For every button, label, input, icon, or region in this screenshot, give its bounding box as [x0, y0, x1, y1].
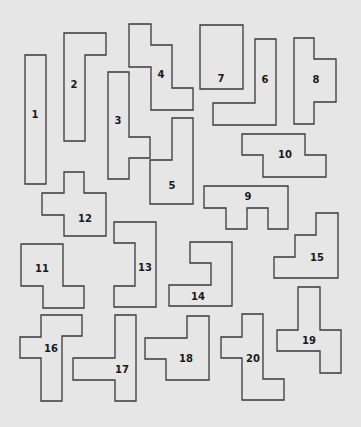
piece-12: 12	[42, 172, 106, 236]
piece-10: 10	[242, 134, 326, 177]
piece-outline	[42, 172, 106, 236]
piece-label: 11	[35, 263, 49, 274]
piece-label: 12	[78, 213, 92, 224]
piece-outline	[277, 287, 341, 373]
piece-label: 5	[169, 180, 176, 191]
piece-label: 9	[245, 191, 252, 202]
piece-3: 3	[108, 72, 150, 179]
pieces-canvas: 1234567891011121314151617181920	[0, 0, 361, 427]
piece-outline	[150, 118, 193, 204]
piece-label: 13	[138, 262, 152, 273]
piece-13: 13	[114, 222, 156, 307]
piece-label: 18	[179, 353, 193, 364]
piece-7: 7	[200, 25, 243, 89]
piece-20: 20	[221, 314, 284, 400]
piece-9: 9	[204, 186, 288, 229]
piece-14: 14	[169, 242, 232, 306]
piece-1: 1	[25, 55, 46, 184]
piece-outline	[274, 213, 338, 278]
piece-11: 11	[21, 244, 84, 308]
piece-label: 3	[115, 115, 122, 126]
piece-label: 15	[310, 252, 324, 263]
piece-label: 2	[71, 79, 78, 90]
piece-2: 2	[64, 33, 106, 141]
piece-label: 17	[115, 364, 129, 375]
piece-label: 19	[302, 335, 316, 346]
piece-19: 19	[277, 287, 341, 373]
piece-label: 6	[262, 74, 269, 85]
piece-4: 4	[129, 24, 193, 110]
piece-18: 18	[145, 316, 209, 380]
piece-label: 1	[32, 109, 39, 120]
piece-15: 15	[274, 213, 338, 278]
piece-outline	[145, 316, 209, 380]
piece-label: 4	[158, 69, 165, 80]
piece-label: 10	[278, 149, 292, 160]
piece-label: 20	[246, 353, 260, 364]
piece-8: 8	[294, 38, 336, 124]
piece-outline	[21, 244, 84, 308]
piece-label: 16	[44, 343, 58, 354]
piece-label: 8	[313, 74, 320, 85]
puzzle-pieces-diagram: 1234567891011121314151617181920	[0, 0, 361, 427]
piece-label: 14	[191, 291, 205, 302]
piece-label: 7	[218, 73, 225, 84]
piece-5: 5	[150, 118, 193, 204]
piece-outline	[129, 24, 193, 110]
